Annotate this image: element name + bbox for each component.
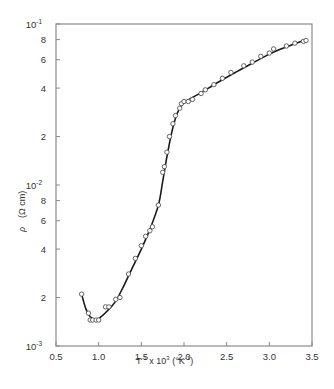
data-point <box>126 272 130 276</box>
data-point <box>79 292 83 296</box>
data-point <box>212 82 216 86</box>
data-point <box>165 150 169 154</box>
data-point <box>267 51 271 55</box>
data-point <box>114 297 118 301</box>
data-point <box>186 99 190 103</box>
y-tick-label: 10-1 <box>26 18 43 30</box>
data-point <box>242 64 246 68</box>
data-point <box>107 305 111 309</box>
data-point <box>199 91 203 95</box>
y-tick-label: 8 <box>41 195 46 206</box>
data-point <box>160 170 164 174</box>
data-point <box>293 41 297 45</box>
data-point <box>271 47 275 51</box>
data-point <box>133 256 137 260</box>
data-markers <box>79 38 308 322</box>
data-point <box>220 76 224 80</box>
plot-axes <box>56 24 312 346</box>
data-point <box>143 234 147 238</box>
data-point <box>156 203 160 207</box>
data-point <box>250 60 254 64</box>
axis-ticks <box>56 24 312 346</box>
y-axis-unit: (Ω cm) <box>17 191 27 218</box>
data-point <box>203 88 207 92</box>
y-tick-label: 6 <box>41 54 46 65</box>
plot-frame <box>56 24 312 346</box>
x-tick-label: 1.0 <box>92 351 105 362</box>
fit-curve <box>82 40 306 320</box>
data-point <box>171 122 175 126</box>
y-tick-label: 4 <box>41 83 46 94</box>
x-tick-label: 3.5 <box>305 351 318 362</box>
data-point <box>167 134 171 138</box>
data-point <box>178 106 182 110</box>
y-tick-label: 8 <box>41 34 46 45</box>
y-axis-symbol: ρ <box>17 227 27 233</box>
x-tick-label: 0.5 <box>49 351 62 362</box>
data-point <box>173 113 177 117</box>
y-axis-title: ρ (Ω cm) <box>17 191 27 233</box>
data-point <box>182 99 186 103</box>
data-point <box>118 295 122 299</box>
y-tick-label: 6 <box>41 215 46 226</box>
y-tick-label: 10-2 <box>26 179 43 191</box>
data-point <box>96 318 100 322</box>
y-tick-label: 2 <box>41 292 46 303</box>
data-point <box>86 311 90 315</box>
data-point <box>139 243 143 247</box>
x-tick-label: 3.0 <box>263 351 276 362</box>
data-point <box>229 70 233 74</box>
y-tick-label: 10-3 <box>26 340 43 352</box>
x-tick-label: 2.5 <box>220 351 233 362</box>
chart-canvas: 10-1864210-2864210-3 0.51.01.52.02.53.03… <box>0 0 334 389</box>
data-point <box>150 225 154 229</box>
data-point <box>162 164 166 168</box>
x-axis-title: T-1 x 103 (°K-1) <box>136 355 193 366</box>
y-tick-label: 4 <box>41 244 46 255</box>
y-tick-label: 2 <box>41 131 46 142</box>
data-point <box>284 44 288 48</box>
data-point <box>190 97 194 101</box>
y-tick-labels: 10-1864210-2864210-3 <box>26 18 46 352</box>
data-point <box>259 54 263 58</box>
data-point <box>304 38 308 42</box>
